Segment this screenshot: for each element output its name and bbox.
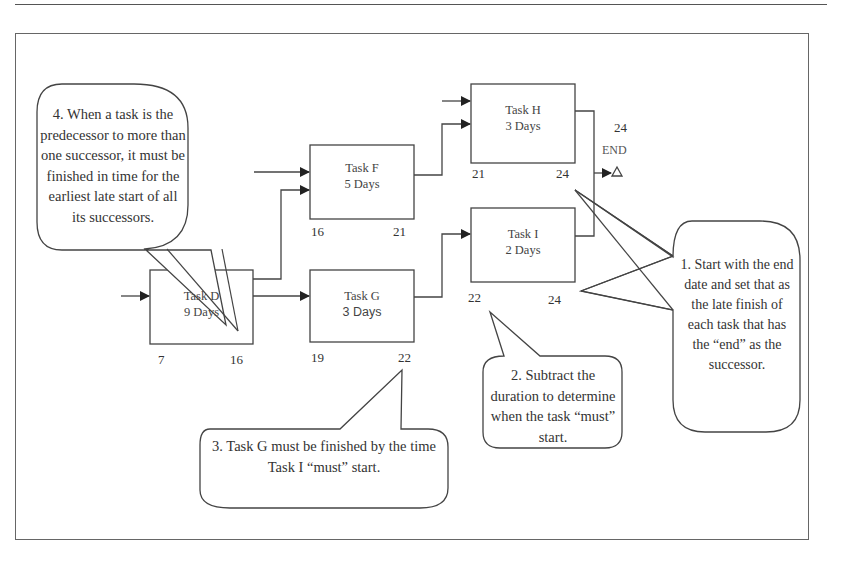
callout-2-text: 2. Subtract the duration to determine wh…: [486, 365, 620, 447]
task-d-late-start: 7: [158, 352, 165, 368]
task-i-name: Task I: [471, 226, 575, 242]
task-f: Task F 5 Days: [310, 160, 414, 192]
task-h-duration: 3 Days: [471, 118, 575, 134]
task-g-name: Task G: [310, 288, 414, 304]
task-h-late-start: 21: [472, 166, 485, 182]
task-g-late-start: 19: [311, 350, 324, 366]
callout-3-text: 3. Task G must be finished by the time T…: [203, 436, 445, 477]
task-g-late-finish: 22: [398, 350, 411, 366]
task-f-late-finish: 21: [393, 224, 406, 240]
task-i-late-finish: 24: [548, 292, 561, 308]
task-d: Task D 9 Days: [150, 288, 253, 320]
task-h-name: Task H: [471, 102, 575, 118]
task-g: Task G 3 Days: [310, 288, 414, 320]
task-h-late-finish: 24: [556, 166, 569, 182]
task-h: Task H 3 Days: [471, 102, 575, 134]
task-i: Task I 2 Days: [471, 226, 575, 258]
callout-4-text: 4. When a task is the predecessor to mor…: [40, 104, 186, 227]
task-d-duration: 9 Days: [150, 304, 253, 320]
task-f-duration: 5 Days: [310, 176, 414, 192]
task-f-late-start: 16: [311, 224, 324, 240]
task-f-name: Task F: [310, 160, 414, 176]
task-i-duration: 2 Days: [471, 242, 575, 258]
end-label: END: [602, 143, 627, 158]
end-milestone-icon: [612, 167, 622, 176]
end-value: 24: [614, 120, 627, 136]
callout-1-text: 1. Start with the end date and set that …: [678, 255, 796, 375]
task-i-late-start: 22: [468, 290, 481, 306]
task-d-name: Task D: [150, 288, 253, 304]
task-g-duration: 3 Days: [310, 304, 414, 320]
task-d-late-finish: 16: [230, 352, 243, 368]
